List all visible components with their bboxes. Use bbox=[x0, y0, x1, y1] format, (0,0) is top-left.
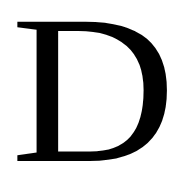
letter-d-glyph: D bbox=[0, 0, 187, 174]
